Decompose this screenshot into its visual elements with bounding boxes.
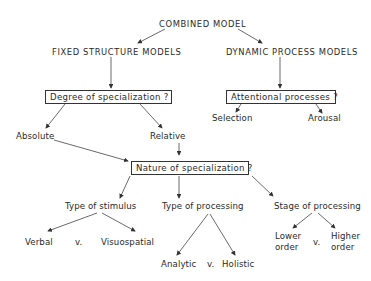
node-lower-order-line1: Lower xyxy=(275,232,301,241)
node-higher-order-line2: order xyxy=(331,243,354,252)
question-box-attention: Attentional processes ? xyxy=(226,90,336,104)
node-relative: Relative xyxy=(150,132,185,141)
node-fixed-structure-models: FIXED STRUCTURE MODELS xyxy=(52,48,181,56)
node-selection: Selection xyxy=(212,114,253,123)
node-visuospatial: Visuospatial xyxy=(101,238,154,247)
question-box-nature: Nature of specialization ? xyxy=(131,161,249,175)
node-analytic: Analytic xyxy=(161,260,196,269)
node-dynamic-process-models: DYNAMIC PROCESS MODELS xyxy=(226,48,358,56)
node-lower-order-line2: order xyxy=(275,243,298,252)
node-type-of-stimulus: Type of stimulus xyxy=(65,202,136,211)
versus-stage: v. xyxy=(313,238,320,247)
question-box-degree: Degree of specialization ? xyxy=(45,90,172,104)
root-node-combined-model: COMBINED MODEL xyxy=(159,20,246,28)
node-type-of-processing: Type of processing xyxy=(162,202,244,211)
node-holistic: Holistic xyxy=(222,260,254,269)
node-verbal: Verbal xyxy=(25,238,53,247)
node-stage-of-processing: Stage of processing xyxy=(274,202,361,211)
versus-processing: v. xyxy=(207,260,214,269)
node-absolute: Absolute xyxy=(16,132,54,141)
node-arousal: Arousal xyxy=(308,114,341,123)
versus-stimulus: v. xyxy=(75,238,82,247)
node-higher-order-line1: Higher xyxy=(331,232,360,241)
